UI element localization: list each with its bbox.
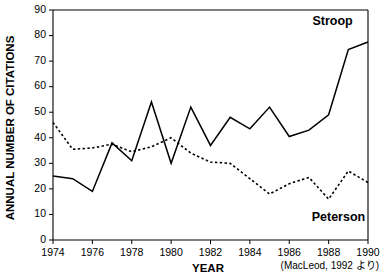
x-axis-tick-label: 1990 (356, 246, 380, 258)
x-axis-tick-label: 1980 (159, 246, 183, 258)
y-axis-tick-label: 10 (34, 207, 46, 219)
chart-canvas: 0102030405060708090 19741976197819801982… (0, 0, 383, 275)
x-axis-tick-label: 1974 (41, 246, 65, 258)
x-axis-tick-label: 1982 (199, 246, 223, 258)
y-axis-tick-label: 30 (34, 156, 46, 168)
y-axis-tick-label: 90 (34, 3, 46, 15)
x-axis-tick-label: 1978 (120, 246, 144, 258)
stroop-label: Stroop (312, 14, 353, 28)
source-note: (MacLeod, 1992 より) (281, 260, 379, 271)
y-axis-tick-label: 50 (34, 105, 46, 117)
peterson-label: Peterson (312, 210, 366, 224)
y-axis-tick-label: 20 (34, 182, 46, 194)
y-axis-tick-label: 60 (34, 79, 46, 91)
x-axis-tick-label: 1988 (317, 246, 341, 258)
y-axis-title: ANNUAL NUMBER OF CITATIONS (4, 35, 16, 220)
x-axis-tick-label: 1986 (278, 246, 302, 258)
chart-background (0, 0, 383, 275)
y-axis-tick-label: 40 (34, 131, 46, 143)
x-axis-tick-label: 1976 (81, 246, 105, 258)
citations-line-chart: 0102030405060708090 19741976197819801982… (0, 0, 383, 275)
y-axis-tick-label: 0 (40, 233, 46, 245)
x-axis-tick-label: 1984 (238, 246, 262, 258)
y-axis-tick-label: 70 (34, 54, 46, 66)
y-axis-tick-label: 80 (34, 28, 46, 40)
x-axis-title: YEAR (192, 262, 225, 274)
